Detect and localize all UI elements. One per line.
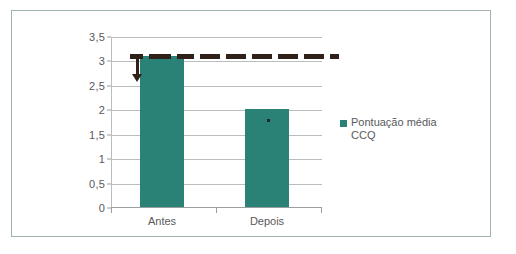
legend-label-pontuacao-media-ccq: Pontuação média CCQ [351,116,447,142]
x-tick-label-antes: Antes [148,215,176,227]
decrease-arrow-icon [132,55,143,82]
y-tick-mark-0-5 [107,183,111,184]
gridline-3-5 [111,37,322,38]
y-tick-label-3-5: 3,5 [89,31,105,43]
chart-canvas: 3,5 3 2,5 2 1,5 1 0,5 0 Ant [12,11,490,236]
y-tick-mark-2-5 [107,85,111,86]
y-tick-mark-3 [107,61,111,62]
y-axis-line [111,37,112,208]
y-tick-mark-3-5 [107,37,111,38]
y-tick-mark-2 [107,110,111,111]
legend-swatch-pontuacao-media-ccq [340,120,347,127]
y-tick-label-0: 0 [99,202,105,214]
x-tick-mark-mid [216,208,217,213]
y-tick-label-2: 2 [99,104,105,116]
y-tick-label-0-5: 0,5 [89,178,105,190]
y-tick-mark-1-5 [107,134,111,135]
bar-antes[interactable] [140,56,184,207]
x-tick-label-depois: Depois [250,215,284,227]
y-tick-label-1: 1 [99,153,105,165]
y-tick-label-2-5: 2,5 [89,80,105,92]
y-tick-mark-1 [107,159,111,160]
reference-line-dashed [130,54,340,59]
x-tick-mark-end [321,208,322,213]
y-tick-label-3: 3 [99,55,105,67]
y-tick-label-1-5: 1,5 [89,129,105,141]
chart-figure-frame: 3,5 3 2,5 2 1,5 1 0,5 0 Ant [11,10,491,237]
chart-legend: Pontuação média CCQ [340,116,447,142]
x-tick-mark-start [111,208,112,213]
plot-area: 3,5 3 2,5 2 1,5 1 0,5 0 Ant [111,37,322,208]
bar-depois[interactable] [245,109,289,207]
bar-speck-artifact [267,119,270,122]
